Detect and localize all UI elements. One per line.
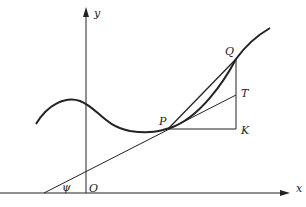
x-axis-label: x — [296, 183, 302, 194]
diagram-canvas — [0, 0, 306, 207]
function-curve — [36, 28, 270, 132]
angle-psi-label: ψ — [62, 182, 71, 193]
secant-line — [168, 59, 236, 129]
x-axis-arrow-icon — [280, 190, 290, 196]
tangent-diagram: y x O ψ P Q T K — [0, 0, 306, 207]
tangent-line — [44, 95, 236, 193]
point-t-label: T — [241, 88, 248, 99]
point-q-label: Q — [225, 46, 234, 57]
point-k-label: K — [241, 125, 249, 136]
point-p-label: P — [159, 116, 166, 127]
y-axis-arrow-icon — [83, 7, 89, 17]
origin-label: O — [89, 183, 98, 194]
y-axis-label: y — [94, 8, 100, 19]
